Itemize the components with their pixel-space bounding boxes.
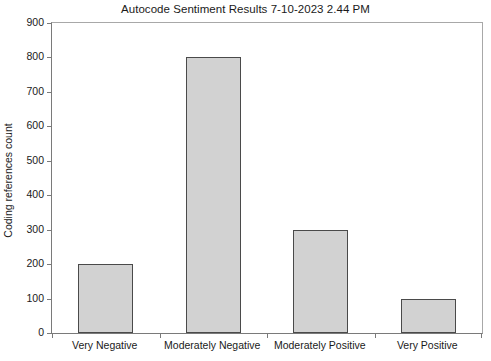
x-axis-tick — [52, 333, 53, 338]
x-axis-category-label: Moderately Positive — [266, 339, 374, 351]
x-axis-category-label: Moderately Negative — [159, 339, 267, 351]
y-axis-tick: 200 — [47, 264, 52, 265]
y-axis-tick-label: 300 — [26, 223, 44, 235]
x-axis-category-label: Very Negative — [51, 339, 159, 351]
plot-area: 0100200300400500600700800900 — [51, 22, 483, 334]
x-axis-tick — [267, 333, 268, 338]
y-axis-tick-label: 700 — [26, 85, 44, 97]
x-axis-category-label: Very Positive — [374, 339, 482, 351]
y-axis-tick: 600 — [47, 126, 52, 127]
x-axis-tick — [375, 333, 376, 338]
x-axis-tick — [481, 333, 482, 338]
bar[interactable] — [78, 264, 133, 333]
y-axis-label: Coding references count — [2, 0, 18, 361]
y-axis-tick: 700 — [47, 92, 52, 93]
plot-inner: 0100200300400500600700800900 — [52, 23, 482, 333]
bar[interactable] — [293, 230, 348, 333]
chart-figure: Autocode Sentiment Results 7-10-2023 2.4… — [0, 0, 491, 361]
y-axis-tick-label: 900 — [26, 16, 44, 28]
y-axis-tick-label: 400 — [26, 188, 44, 200]
bar[interactable] — [186, 57, 241, 333]
y-axis-tick-label: 200 — [26, 257, 44, 269]
bar[interactable] — [401, 299, 456, 333]
y-axis-tick: 500 — [47, 161, 52, 162]
y-axis-tick: 800 — [47, 57, 52, 58]
y-axis-tick-label: 500 — [26, 154, 44, 166]
y-axis-tick-label: 100 — [26, 292, 44, 304]
y-axis-tick: 300 — [47, 230, 52, 231]
y-axis-tick-label: 800 — [26, 50, 44, 62]
chart-title: Autocode Sentiment Results 7-10-2023 2.4… — [0, 3, 491, 15]
y-axis-tick-label: 0 — [38, 326, 44, 338]
y-axis-tick: 400 — [47, 195, 52, 196]
y-axis-tick-label: 600 — [26, 119, 44, 131]
y-axis-tick: 900 — [47, 23, 52, 24]
y-axis-tick: 100 — [47, 299, 52, 300]
x-axis-tick — [160, 333, 161, 338]
